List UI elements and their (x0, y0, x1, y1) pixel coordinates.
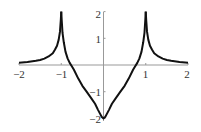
x-tick-label: 2 (184, 68, 190, 80)
axes (19, 12, 188, 121)
y-tick-label: 1 (96, 33, 102, 45)
x-tick-label: −1 (56, 68, 68, 80)
chart-plot: −2 −1 1 2 2 1 −1 −2 (0, 0, 201, 132)
y-tick-label: 2 (96, 8, 102, 20)
tick-labels: −2 −1 1 2 2 1 −1 −2 (13, 8, 190, 125)
x-tick-label: 1 (143, 68, 149, 80)
curve-branch (19, 12, 61, 63)
y-tick-label: −2 (89, 113, 101, 125)
x-tick-label: −2 (13, 68, 25, 80)
curve-branch (146, 12, 188, 63)
